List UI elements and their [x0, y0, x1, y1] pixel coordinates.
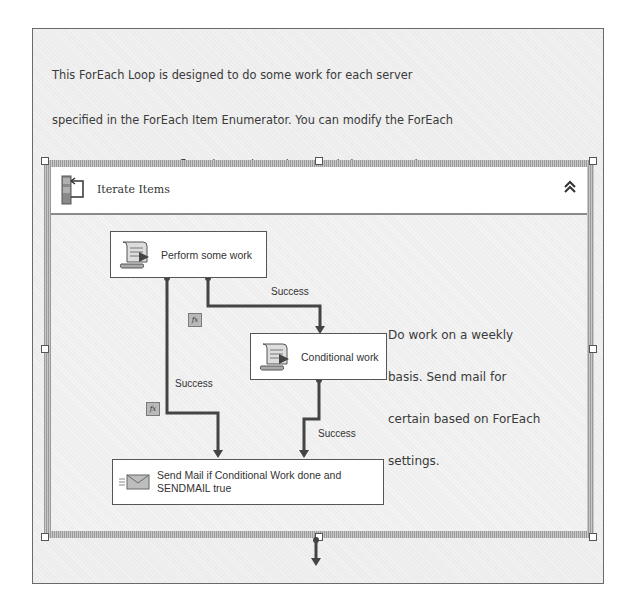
- constraint-label: Success: [318, 428, 356, 439]
- expression-icon[interactable]: fx: [188, 313, 202, 327]
- constraint-label: Success: [271, 286, 309, 297]
- comment-line: certain based on ForEach: [388, 412, 540, 426]
- comment-line: Do work on a weekly: [388, 328, 540, 342]
- task-label: Conditional work: [301, 351, 379, 363]
- constraint-label: Success: [175, 378, 213, 389]
- task-conditional-work[interactable]: Conditional work: [250, 333, 387, 380]
- send-mail-task-icon: [117, 472, 151, 492]
- script-task-icon: [257, 340, 293, 374]
- task-label: Send Mail if Conditional Work done and S…: [157, 469, 377, 495]
- script-task-icon: [117, 238, 153, 272]
- task-send-mail[interactable]: Send Mail if Conditional Work done and S…: [112, 459, 384, 505]
- comment-line: settings.: [388, 454, 540, 468]
- constraint-conditional-to-sendmail: [304, 380, 319, 452]
- comment-line: basis. Send mail for: [388, 370, 540, 384]
- task-perform-some-work[interactable]: Perform some work: [110, 231, 267, 278]
- constraint-perform-to-sendmail: [167, 278, 218, 452]
- comment-annotation[interactable]: Do work on a weekly basis. Send mail for…: [388, 300, 540, 482]
- expression-icon[interactable]: fx: [146, 402, 160, 416]
- task-label: Perform some work: [161, 249, 252, 261]
